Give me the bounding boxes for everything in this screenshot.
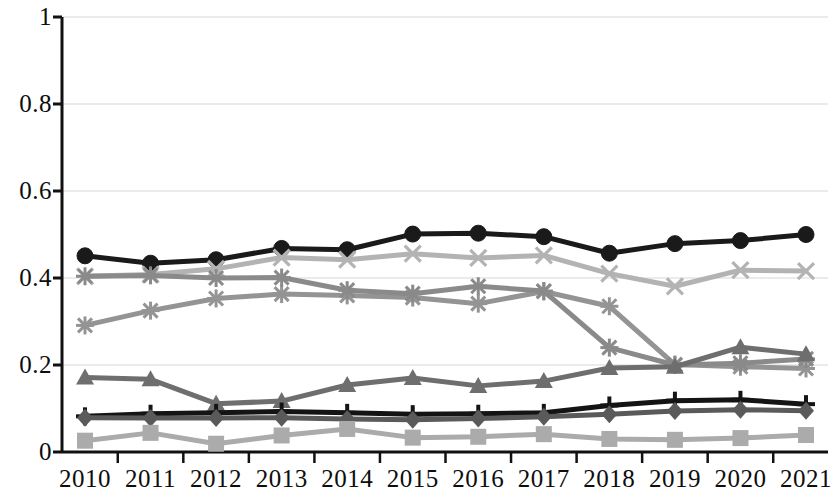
y-tick-label: 0 [0, 439, 52, 464]
x-tick-label: 2021 [763, 466, 834, 491]
series-series-1-circle [77, 225, 814, 271]
gridlines [62, 17, 828, 365]
y-tick-label: 0.8 [0, 91, 52, 116]
y-tick-label: 0.2 [0, 352, 52, 377]
series-series-2-x [77, 246, 814, 295]
series-series-8-square [77, 421, 814, 452]
y-tick-label: 1 [0, 4, 52, 29]
y-tick-label: 0.4 [0, 265, 52, 290]
y-tick-label: 0.6 [0, 178, 52, 203]
